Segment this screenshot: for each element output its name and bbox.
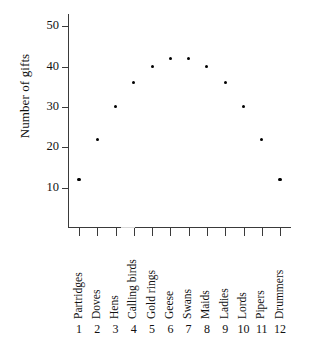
- category-label: Lords: [236, 292, 248, 319]
- data-point: [132, 81, 135, 84]
- category-label: Maids: [199, 290, 211, 319]
- day-number-label: 10: [234, 322, 254, 336]
- data-point: [96, 138, 99, 141]
- x-tick-1: [79, 228, 80, 236]
- data-point: [260, 138, 263, 141]
- y-tick-label-30: 30: [47, 99, 60, 114]
- x-tick-4: [134, 228, 135, 236]
- day-number-label: 4: [124, 322, 144, 336]
- scatter-plot-figure: Number of gifts 1020304050 PartridgesDov…: [0, 0, 310, 356]
- y-tick-40: 40: [62, 67, 68, 68]
- y-tick-10: 10: [62, 188, 68, 189]
- category-label: Hens: [108, 295, 120, 319]
- x-axis-category-labels: PartridgesDovesHensCalling birdsGold rin…: [68, 237, 291, 319]
- data-point: [278, 178, 281, 181]
- day-number-label: 6: [160, 322, 180, 336]
- category-label: Drummers: [273, 270, 285, 319]
- day-number-label: 5: [142, 322, 162, 336]
- day-number-label: 2: [87, 322, 107, 336]
- y-axis-line: [68, 14, 69, 228]
- day-number-label: 7: [179, 322, 199, 336]
- x-axis-line: [68, 227, 291, 228]
- category-label: Swans: [181, 289, 193, 319]
- y-tick-label-20: 20: [47, 139, 60, 154]
- category-label: Ladies: [218, 288, 230, 319]
- day-number-label: 12: [270, 322, 290, 336]
- data-point: [242, 105, 245, 108]
- y-tick-label-40: 40: [47, 59, 60, 74]
- day-number-label: 8: [197, 322, 217, 336]
- y-axis-title: Number of gifts: [17, 26, 33, 166]
- category-label: Pipers: [254, 290, 266, 319]
- data-point: [151, 65, 154, 68]
- data-point: [224, 81, 227, 84]
- data-point: [205, 65, 208, 68]
- x-tick-6: [170, 228, 171, 236]
- x-tick-11: [262, 228, 263, 236]
- category-label: Calling birds: [126, 259, 138, 319]
- y-tick-30: 30: [62, 107, 68, 108]
- x-tick-2: [97, 228, 98, 236]
- data-point: [77, 178, 80, 181]
- x-tick-8: [207, 228, 208, 236]
- category-label: Doves: [90, 290, 102, 319]
- data-point: [114, 105, 117, 108]
- y-tick-label-50: 50: [47, 18, 60, 33]
- y-tick-20: 20: [62, 147, 68, 148]
- day-number-label: 1: [69, 322, 89, 336]
- x-axis-number-labels: 123456789101112: [68, 322, 291, 338]
- x-tick-5: [152, 228, 153, 236]
- x-tick-9: [225, 228, 226, 236]
- category-label: Geese: [163, 291, 175, 319]
- x-tick-3: [116, 228, 117, 236]
- y-tick-50: 50: [62, 26, 68, 27]
- y-tick-label-10: 10: [47, 180, 60, 195]
- day-number-label: 9: [215, 322, 235, 336]
- x-tick-7: [189, 228, 190, 236]
- plot-area: 1020304050: [68, 14, 291, 228]
- category-label: Partridges: [72, 272, 84, 319]
- x-tick-12: [280, 228, 281, 236]
- day-number-label: 3: [106, 322, 126, 336]
- category-label: Gold rings: [145, 270, 157, 319]
- day-number-label: 11: [252, 322, 272, 336]
- data-point: [169, 57, 172, 60]
- data-point: [187, 57, 190, 60]
- x-tick-10: [244, 228, 245, 236]
